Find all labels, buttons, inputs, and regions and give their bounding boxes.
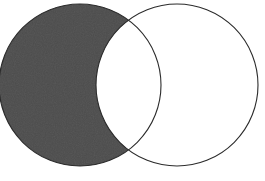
venn-diagram-canvas (0, 0, 265, 181)
shaded-region-texture (0, 0, 265, 181)
shaded-region-a-minus-b (0, 0, 265, 181)
venn-diagram-figure (0, 0, 265, 181)
